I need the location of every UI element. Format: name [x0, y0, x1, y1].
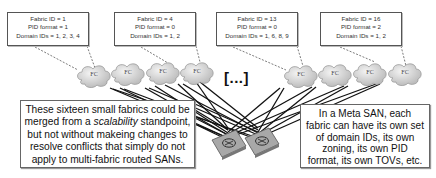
left-note-line-2: merged from a scalability standpoint,: [21, 116, 194, 128]
fc-label: FC: [352, 69, 388, 75]
right-note-box: In a Meta SAN, each fabric can have its …: [300, 104, 430, 168]
fc-router-right: [245, 128, 279, 158]
domain-ids: Domain IDs = 1, 2: [115, 32, 195, 40]
fc-cloud-4: FC: [179, 61, 215, 85]
fc-label: FC: [283, 71, 319, 77]
fc-cloud-3: FC: [145, 61, 181, 85]
pid-format: PID format = 0: [115, 23, 195, 31]
ellipsis-marker: [...]: [224, 69, 249, 86]
right-note-line-4: zoning, its own PID: [301, 143, 429, 155]
fc-label: FC: [145, 68, 181, 74]
pid-format: PID format = 2: [321, 23, 401, 31]
right-note-line-1: In a Meta SAN, each: [301, 108, 429, 120]
left-note-line-5: apply to multi-fabric routed SANs.: [21, 154, 194, 166]
domain-ids: Domain IDs = 1, 6, 8, 9: [217, 32, 297, 40]
left-note-box: These sixteen small fabrics could be mer…: [20, 100, 195, 168]
right-note-line-2: fabric can have its own set: [301, 120, 429, 132]
left-note-line-3: but not without makeing changes to: [21, 129, 194, 141]
fc-label: FC: [110, 69, 146, 75]
right-note-line-3: of domain IDs, its own: [301, 132, 429, 144]
fc-label: FC: [76, 71, 112, 77]
right-note-line-5: format, its own TOVs, etc.: [301, 155, 429, 167]
domain-ids: Domain IDs = 1, 2, 3, 4: [8, 32, 88, 40]
fabric-info-box-4: Fabric ID = 16 PID format = 2 Domain IDs…: [320, 12, 402, 46]
left-note-line-2-pre: merged from a: [25, 116, 94, 127]
left-note-line-1: These sixteen small fabrics could be: [21, 104, 194, 116]
fc-cloud-1: FC: [76, 64, 112, 88]
fc-label: FC: [387, 69, 423, 75]
fc-label: FC: [179, 68, 215, 74]
fabric-id: Fabric ID = 16: [321, 15, 401, 23]
fc-cloud-5: FC: [283, 64, 319, 88]
left-note-line-2-post: standpoint,: [138, 116, 191, 127]
left-note-emphasis: scalability: [94, 116, 138, 127]
fabric-info-box-3: Fabric ID = 13 PID format = 0 Domain IDs…: [216, 12, 298, 46]
fc-cloud-6: FC: [317, 63, 353, 87]
fabric-info-box-1: Fabric ID = 1 PID format = 1 Domain IDs …: [7, 12, 89, 46]
pid-format: PID format = 0: [217, 23, 297, 31]
left-note-line-4: resolve conflicts that simply do not: [21, 141, 194, 153]
fabric-id: Fabric ID = 4: [115, 15, 195, 23]
domain-ids: Domain IDs = 1, 2: [321, 32, 401, 40]
pid-format: PID format = 1: [8, 23, 88, 31]
fabric-id: Fabric ID = 13: [217, 15, 297, 23]
fc-cloud-7: FC: [352, 62, 388, 86]
fc-cloud-2: FC: [110, 62, 146, 86]
fc-cloud-8: FC: [387, 62, 423, 86]
fc-label: FC: [317, 70, 353, 76]
fabric-id: Fabric ID = 1: [8, 15, 88, 23]
fabric-info-box-2: Fabric ID = 4 PID format = 0 Domain IDs …: [114, 12, 196, 46]
meta-san-diagram: FC FC FC FC FC FC FC FC Fabric ID = 1 PI…: [0, 0, 436, 178]
